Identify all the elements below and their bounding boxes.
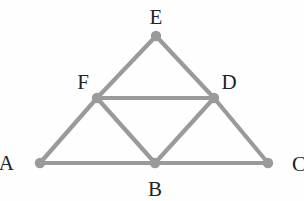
- vertex-dot-b: [150, 158, 160, 168]
- edge-d-c: [214, 98, 268, 163]
- vertex-label-c: C: [292, 154, 304, 175]
- geometry-figure: ABCDEF: [0, 0, 304, 201]
- edge-a-f: [40, 98, 97, 163]
- vertex-label-f: F: [77, 72, 89, 93]
- geometry-canvas: [0, 0, 304, 201]
- vertex-dot-e: [151, 31, 161, 41]
- edge-b-d: [155, 98, 214, 163]
- edge-e-d: [156, 36, 214, 98]
- edge-f-e: [97, 36, 156, 98]
- vertex-label-d: D: [221, 72, 236, 93]
- vertex-label-b: B: [148, 179, 162, 200]
- vertex-dot-a: [35, 158, 45, 168]
- edge-layer: [40, 36, 268, 163]
- vertex-dot-c: [263, 158, 273, 168]
- vertex-dot-f: [92, 93, 102, 103]
- vertex-label-e: E: [150, 7, 163, 28]
- vertex-label-a: A: [0, 153, 14, 174]
- edge-f-b: [97, 98, 155, 163]
- vertex-dot-d: [209, 93, 219, 103]
